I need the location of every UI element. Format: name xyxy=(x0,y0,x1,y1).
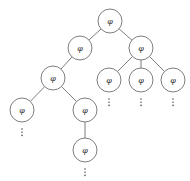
node-label: φ xyxy=(77,44,83,53)
tree-edge xyxy=(89,29,101,40)
tree-edge xyxy=(119,29,132,40)
node-label: φ xyxy=(107,17,113,26)
tree-node: φ xyxy=(129,68,153,92)
tree-node: φ xyxy=(41,66,65,90)
tree-edge xyxy=(61,86,76,101)
tree-edge xyxy=(30,87,44,102)
tree-edge xyxy=(149,56,164,71)
tree-node: φ xyxy=(10,98,34,122)
tree-node: φ xyxy=(97,68,121,92)
tree-node: φ xyxy=(161,68,185,92)
node-label: φ xyxy=(82,146,88,155)
vertical-ellipsis-icon xyxy=(84,168,86,176)
tree-node: φ xyxy=(98,9,122,33)
tree-node: φ xyxy=(129,36,153,60)
tree-node: φ xyxy=(73,98,97,122)
node-label: φ xyxy=(170,76,176,85)
vertical-ellipsis-icon xyxy=(21,128,23,136)
tree-diagram: φφφφφφφφφφ xyxy=(0,0,190,181)
vertical-ellipsis-icon xyxy=(172,98,174,106)
node-label: φ xyxy=(82,106,88,115)
vertical-ellipsis-icon xyxy=(140,98,142,106)
vertical-ellipsis-icon xyxy=(108,98,110,106)
tree-edge xyxy=(61,57,72,69)
node-label: φ xyxy=(106,76,112,85)
node-label: φ xyxy=(50,74,56,83)
tree-node: φ xyxy=(73,138,97,162)
tree-edge xyxy=(117,56,132,71)
tree-node: φ xyxy=(68,36,92,60)
node-label: φ xyxy=(19,106,25,115)
node-label: φ xyxy=(138,44,144,53)
node-label: φ xyxy=(138,76,144,85)
continuation-ellipses xyxy=(21,98,174,176)
